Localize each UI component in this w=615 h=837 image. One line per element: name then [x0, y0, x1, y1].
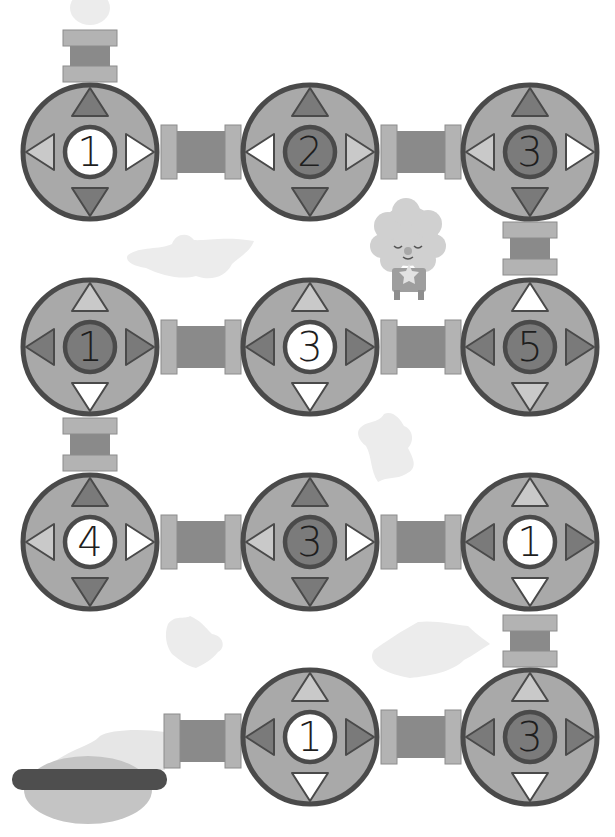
valve-node[interactable]: 1 [23, 280, 157, 414]
pipe-flange [63, 66, 117, 82]
splash-lower-left [166, 616, 223, 668]
pipe-segment [381, 125, 461, 179]
pipe-flange [445, 710, 461, 764]
pipe-segment [503, 615, 557, 667]
pipe-flange [225, 125, 241, 179]
splash-top [70, 0, 110, 25]
pipe-body [175, 131, 227, 173]
valve-number: 5 [517, 324, 542, 370]
pipe-body [395, 326, 447, 368]
pipe-segment [381, 710, 461, 764]
pipe-flange [503, 615, 557, 631]
pipe-segment [63, 418, 117, 471]
sheep-leg-right [418, 290, 424, 300]
valve-number: 4 [77, 519, 102, 565]
pipe-body [510, 629, 550, 653]
pipe-flange [225, 714, 241, 768]
valve-number: 1 [77, 324, 102, 370]
pipe-flange [164, 714, 180, 768]
pipe-flange [63, 30, 117, 46]
splash-left-mid [127, 235, 254, 279]
valve-number: 2 [297, 129, 322, 175]
valve-number: 1 [297, 714, 322, 760]
pipe-segment [161, 515, 241, 569]
valve-number: 3 [297, 324, 322, 370]
valve-number: 3 [517, 129, 542, 175]
valve-number: 3 [517, 714, 542, 760]
pipe-segment [161, 125, 241, 179]
pipe-flange [381, 710, 397, 764]
splash-center [358, 413, 414, 482]
valve-node[interactable]: 4 [23, 475, 157, 609]
pipe-flange [381, 515, 397, 569]
valve-node[interactable]: 3 [243, 475, 377, 609]
pipe-segment [381, 320, 461, 374]
valve-number: 1 [517, 519, 542, 565]
pipe-body [178, 720, 227, 762]
valve-node[interactable]: 3 [243, 280, 377, 414]
valve-number: 3 [297, 519, 322, 565]
pipe-segment [381, 515, 461, 569]
valve-node[interactable]: 1 [243, 670, 377, 804]
valve-node[interactable]: 3 [463, 85, 597, 219]
pipe-segment [161, 320, 241, 374]
pipe-segment [164, 714, 241, 768]
pipe-flange [445, 125, 461, 179]
pipe-body [70, 44, 110, 68]
pipe-flange [161, 320, 177, 374]
pipe-flange [445, 320, 461, 374]
pipe-puzzle-board: 12313543113 [0, 0, 615, 837]
pipe-body [510, 236, 550, 261]
sheep-nose [404, 247, 412, 255]
pipe-flange [381, 125, 397, 179]
valve-node[interactable]: 3 [463, 670, 597, 804]
pipe-flange [503, 222, 557, 238]
pipe-flange [161, 125, 177, 179]
valve-node[interactable]: 1 [463, 475, 597, 609]
pipe-body [70, 432, 110, 457]
pipe-flange [225, 320, 241, 374]
pipe-flange [445, 515, 461, 569]
pipe-flange [503, 651, 557, 667]
valve-number: 1 [77, 129, 102, 175]
pipe-body [175, 521, 227, 563]
pipe-body [395, 521, 447, 563]
sheep-character[interactable] [370, 198, 446, 300]
sheep-leg-left [394, 290, 400, 300]
pipe-flange [225, 515, 241, 569]
pipe-body [395, 716, 447, 758]
pipe-body [175, 326, 227, 368]
pipe-body [395, 131, 447, 173]
pipe-flange [161, 515, 177, 569]
sheep-fluff [370, 198, 446, 272]
pipe-flange [381, 320, 397, 374]
pipe-segment [503, 222, 557, 275]
pipe-flange [63, 418, 117, 434]
pipe-flange [503, 259, 557, 275]
pipe-flange [63, 455, 117, 471]
splash-lower-right [372, 621, 490, 678]
valve-node[interactable]: 2 [243, 85, 377, 219]
pipe-segment [63, 30, 117, 82]
valve-node[interactable]: 1 [23, 85, 157, 219]
valve-node[interactable]: 5 [463, 280, 597, 414]
bucket-rim [12, 769, 167, 790]
